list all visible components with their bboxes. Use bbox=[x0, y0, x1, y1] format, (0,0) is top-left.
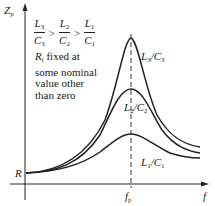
x-axis-arrow-icon bbox=[201, 182, 209, 187]
ratio-l2-c2: L2 C2 bbox=[58, 17, 71, 48]
origin-r-label: R bbox=[15, 168, 22, 179]
ratio-l1-c1: L1 C1 bbox=[83, 17, 96, 48]
y-axis-label: Zp bbox=[4, 5, 14, 18]
greater-than-sign: > bbox=[49, 27, 55, 39]
curve-l2-c2 bbox=[26, 89, 200, 173]
curve-l1-c1 bbox=[26, 134, 200, 173]
curve-label-l3-c3: L3/C3 bbox=[141, 51, 165, 64]
greater-than-sign: > bbox=[74, 27, 80, 39]
curve-label-l2-c2: L2/C2 bbox=[124, 102, 148, 115]
y-axis-arrow-icon bbox=[23, 3, 28, 11]
resonance-frequency-label: fp bbox=[125, 191, 132, 204]
resistance-note: Rl fixed at some nominal value other tha… bbox=[35, 51, 97, 101]
curve-label-l1-c1: L1/C1 bbox=[141, 157, 165, 170]
ratio-l3-c3: L3 C3 bbox=[33, 17, 46, 48]
inequality-annotation: L3 C3 > L2 C2 > L1 C1 bbox=[33, 17, 96, 48]
x-axis-label: f bbox=[203, 191, 206, 202]
